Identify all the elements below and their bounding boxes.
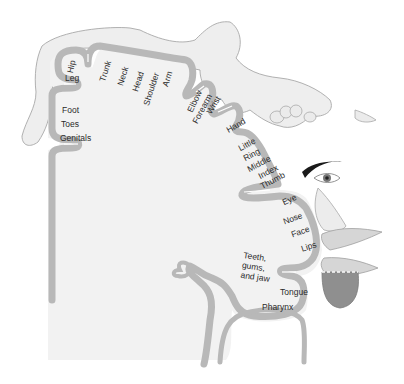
- label-teeth-gums-jaw: Teeth, gums, and jaw: [240, 251, 273, 284]
- homunculus-diagram: Hip Leg Foot Toes Genitals Trunk Neck He…: [0, 0, 404, 384]
- nose-drawing: [315, 188, 346, 231]
- upper-lip-drawing: [321, 229, 382, 251]
- label-toes: Toes: [61, 120, 79, 129]
- label-pharynx: Pharynx: [262, 303, 293, 312]
- diagram-artwork: [0, 0, 404, 384]
- tongue-drawing: [322, 272, 358, 308]
- label-genitals: Genitals: [60, 134, 91, 143]
- label-tongue: Tongue: [280, 288, 308, 297]
- label-foot: Foot: [62, 106, 79, 115]
- label-leg: Leg: [65, 74, 79, 83]
- eye-drawing: [314, 174, 340, 183]
